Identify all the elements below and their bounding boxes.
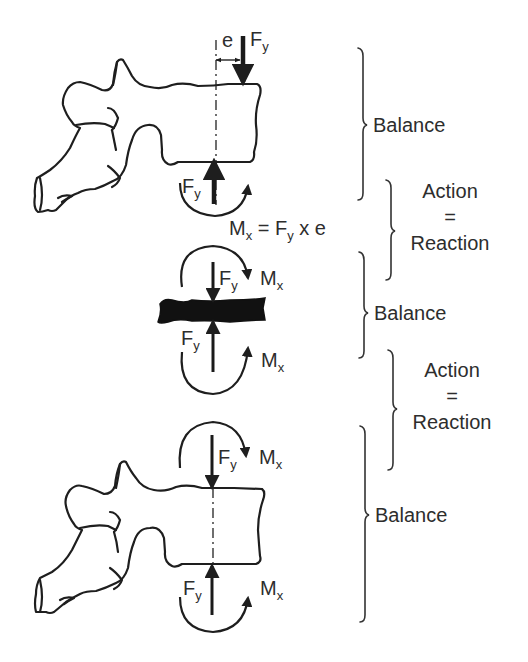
equals-text: =: [402, 204, 498, 230]
moment-arc-lower-bottom: [180, 597, 248, 632]
action-reaction-label-1: Action = Reaction: [402, 178, 498, 256]
moment-label-bottom-lower: Mx: [260, 578, 283, 602]
bracket-balance-1: [358, 48, 367, 200]
balance-label-1: Balance: [373, 115, 445, 135]
force-label-bottom-lower: Fy: [183, 578, 202, 602]
upper-vertebra: [34, 59, 260, 212]
force-label-bottom-upper: Fy: [182, 176, 201, 200]
intervertebral-disc: [158, 298, 265, 323]
force-label-top-upper: Fy: [250, 29, 269, 53]
bracket-action-reaction-1: [386, 180, 395, 280]
force-label-disc-bottom: Fy: [181, 328, 200, 352]
bracket-balance-2: [359, 252, 368, 358]
action-text: Action: [402, 178, 498, 204]
moment-arc-disc-bottom: [182, 348, 248, 394]
eccentricity-label: e: [222, 30, 233, 50]
moment-equation: Mx = Fy x e: [229, 218, 326, 242]
action-reaction-label-2: Action = Reaction: [404, 357, 500, 435]
moment-label-disc-top: Mx: [260, 268, 283, 292]
bracket-balance-3: [360, 426, 369, 622]
balance-label-2: Balance: [374, 303, 446, 323]
bracket-action-reaction-2: [388, 350, 397, 470]
moment-label-disc-bottom: Mx: [261, 350, 284, 374]
reaction-text: Reaction: [404, 409, 500, 435]
force-label-disc-top: Fy: [219, 268, 238, 292]
reaction-text: Reaction: [402, 230, 498, 256]
equals-text: =: [404, 383, 500, 409]
action-text: Action: [404, 357, 500, 383]
balance-label-3: Balance: [375, 505, 447, 525]
moment-label-top-lower: Mx: [259, 447, 282, 471]
force-label-top-lower: Fy: [218, 447, 237, 471]
diagram-drawing: [0, 0, 528, 662]
lower-vertebra: [35, 461, 264, 613]
